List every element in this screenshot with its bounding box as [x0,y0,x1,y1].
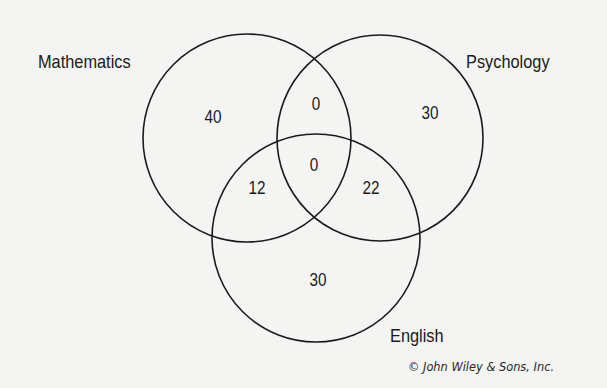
mathematics-label: Mathematics [38,51,131,73]
psychology-circle [277,35,483,241]
copyright-credit: © John Wiley & Sons, Inc. [408,360,554,374]
region-mathematics-english: 12 [248,178,265,199]
region-mathematics-only: 40 [204,107,221,128]
region-english-only: 30 [309,270,326,291]
region-psychology-english: 22 [362,178,379,199]
region-psychology-only: 30 [421,103,438,124]
english-label: English [390,325,444,347]
psychology-label: Psychology [466,51,550,73]
region-mathematics-psychology: 0 [312,94,321,115]
region-all-three: 0 [310,155,319,176]
mathematics-circle [143,34,351,242]
